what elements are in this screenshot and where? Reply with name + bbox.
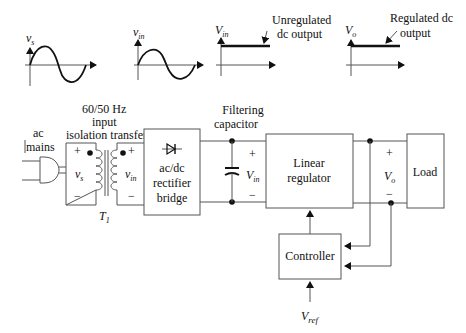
secondary-polarity-dot [120, 150, 126, 156]
waveform-vo-dc: Vo Regulated dc output [345, 11, 453, 76]
output-stage: + − Vo Load [353, 134, 444, 208]
transformer-name: T1 [99, 209, 110, 225]
vin-dc-node-label: Vin [246, 168, 260, 184]
ac-mains-label-1: ac [33, 126, 44, 140]
regulator-label-2: regulator [287, 171, 330, 185]
vs-node-label: vs [75, 167, 83, 183]
vin-ac-minus: − [128, 189, 135, 203]
primary-coil [96, 150, 102, 190]
load-label: Load [413, 165, 438, 179]
waveform-vs: vs [25, 31, 96, 86]
vs-sine-wave [30, 46, 86, 82]
regulated-pointer-arrow [386, 31, 397, 43]
unregulated-annotation-line2: dc output [277, 27, 323, 41]
vin-dc-minus: − [249, 188, 256, 202]
vs-minus: − [74, 189, 81, 203]
primary-wire-bottom [66, 190, 96, 205]
transformer-title-3: isolation transfer [66, 128, 147, 142]
vs-plus: + [74, 144, 81, 158]
vo-minus: − [386, 187, 393, 201]
ac-mains-label-2: mains [26, 140, 55, 154]
vo-axis-label: Vo [345, 23, 356, 39]
plug-body [40, 157, 59, 183]
filter-title-1: Filtering [222, 103, 263, 117]
vo-node-label: Vo [384, 169, 395, 185]
primary-wire-top [66, 143, 96, 150]
vin-ac-sine-wave [138, 50, 195, 79]
vin-dc-plus: + [249, 147, 256, 161]
isolation-transformer: 60/50 Hz input isolation transfer + − vs… [66, 102, 147, 225]
filter-title-2: capacitor [214, 117, 258, 131]
rectifier-bridge-block: ac/dc rectifier bridge [144, 129, 200, 215]
regulator-label-1: Linear [293, 156, 324, 170]
waveform-vin-dc: Vin Unregulated dc output [215, 13, 331, 76]
vref-label: Vref [301, 309, 320, 325]
rectifier-label-1: ac/dc [159, 161, 184, 175]
secondary-coil [111, 150, 117, 190]
controller-label: Controller [285, 249, 334, 263]
vin-ac-node-label: vin [125, 167, 137, 183]
filter-capacitor: Filtering capacitor + − Vin [200, 103, 266, 205]
linear-power-supply-diagram: vs vin Vin Unregulated dc output Vo Regu… [0, 0, 466, 333]
vs-axis-label: vs [26, 31, 34, 47]
vin-dc-axis-label: Vin [215, 23, 229, 39]
waveform-vin-ac: vin [133, 25, 203, 80]
unregulated-annotation-line1: Unregulated [272, 13, 331, 27]
rectifier-label-3: bridge [157, 191, 188, 205]
linear-regulator-block: Linear regulator [266, 134, 353, 208]
transformer-title-2: input [92, 115, 117, 129]
transformer-title-1: 60/50 Hz [82, 102, 126, 116]
vin-ac-plus: + [128, 144, 135, 158]
vo-plus: + [386, 146, 393, 160]
rectifier-label-2: rectifier [153, 176, 191, 190]
regulated-annotation-line2: output [400, 26, 431, 40]
vin-ac-axis-label: vin [133, 25, 145, 41]
unregulated-pointer-arrow [264, 31, 267, 43]
regulated-annotation-line1: Regulated dc [390, 11, 453, 25]
feedback-vo-minus-arrow [345, 203, 391, 266]
primary-polarity-dot [87, 150, 93, 156]
ac-mains-plug: ac mains [22, 126, 66, 183]
